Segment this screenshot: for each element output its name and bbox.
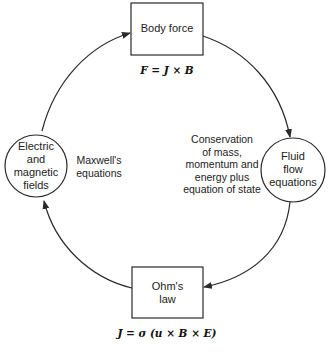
body-force-label: Body force: [131, 22, 203, 35]
edge-bodyforce-to-fluid: [203, 36, 290, 137]
maxwell-annotation: Maxwell's equations: [71, 154, 127, 179]
fluid-flow-line-3: equations: [261, 176, 325, 189]
em-fields-line-2: and: [5, 153, 67, 166]
maxwell-line-1: Maxwell's: [71, 154, 127, 167]
fluid-flow-line-2: flow: [261, 163, 325, 176]
edge-em-to-bodyforce: [42, 33, 130, 131]
conservation-line-4: energy plus: [180, 171, 264, 184]
edge-ohms-to-em: [44, 201, 132, 288]
conservation-line-5: equation of state: [180, 183, 264, 196]
conservation-line-3: momentum and: [180, 158, 264, 171]
ohms-law-line-1: Ohm's: [132, 280, 203, 293]
em-fields-line-4: fields: [5, 179, 67, 192]
fluid-flow-line-1: Fluid: [261, 150, 325, 163]
mhd-cycle-diagram: Body force F = J × B Ohm's law J = σ (u …: [0, 0, 331, 353]
em-fields-label: Electric and magnetic fields: [5, 140, 67, 192]
conservation-annotation: Conservation of mass, momentum and energ…: [180, 133, 264, 196]
ohms-law-equation-text: J = σ (u × B × E): [117, 327, 216, 339]
conservation-line-1: Conservation: [180, 133, 264, 146]
em-fields-line-1: Electric: [5, 140, 67, 153]
maxwell-line-2: equations: [71, 167, 127, 180]
edge-fluid-to-ohms: [204, 202, 290, 287]
body-force-text: Body force: [141, 22, 194, 34]
ohms-law-label: Ohm's law: [132, 280, 203, 306]
fluid-flow-label: Fluid flow equations: [261, 150, 325, 189]
body-force-equation: F = J × B: [117, 64, 217, 76]
em-fields-line-3: magnetic: [5, 166, 67, 179]
conservation-line-2: of mass,: [180, 146, 264, 159]
ohms-law-line-2: law: [132, 293, 203, 306]
lorentz-force-equation: F = J × B: [140, 64, 194, 76]
ohms-law-equation: J = σ (u × B × E): [102, 327, 232, 339]
